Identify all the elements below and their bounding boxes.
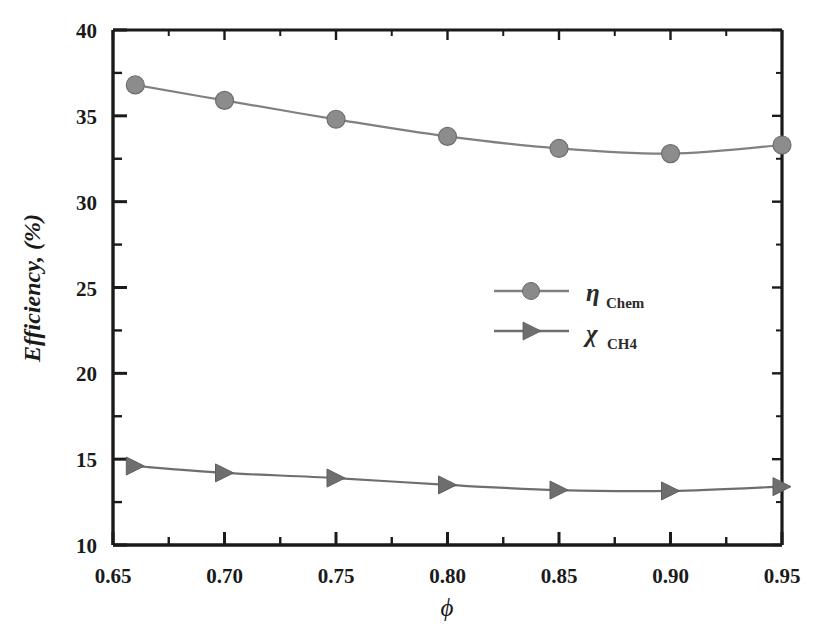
x-axis-tick-labels: 0.650.700.750.800.850.900.95 xyxy=(95,564,801,588)
y-tick-label: 20 xyxy=(76,362,97,386)
plot-frame xyxy=(113,30,782,545)
data-point xyxy=(662,145,680,163)
data-point xyxy=(216,91,234,109)
x-tick-label: 0.75 xyxy=(318,564,355,588)
y-tick-label: 40 xyxy=(76,19,97,43)
chart-figure: 0.650.700.750.800.850.900.95 10152025303… xyxy=(0,0,815,641)
legend-label-eta: η xyxy=(586,279,600,306)
legend-sublabel-chem: Chem xyxy=(606,295,645,311)
x-axis-title: ϕ xyxy=(441,594,454,621)
y-tick-label: 35 xyxy=(76,105,97,129)
chart-svg: 0.650.700.750.800.850.900.95 10152025303… xyxy=(0,0,815,641)
x-tick-label: 0.65 xyxy=(95,564,132,588)
x-tick-label: 0.90 xyxy=(652,564,689,588)
data-point xyxy=(327,110,345,128)
x-tick-label: 0.70 xyxy=(206,564,243,588)
y-axis-tick-labels: 10152025303540 xyxy=(76,19,97,558)
y-tick-label: 30 xyxy=(76,191,97,215)
y-tick-label: 25 xyxy=(76,277,97,301)
legend-label-chi: χ xyxy=(583,320,599,347)
y-tick-label: 10 xyxy=(76,534,97,558)
y-tick-label: 15 xyxy=(76,448,97,472)
data-point xyxy=(773,136,791,154)
data-point xyxy=(126,76,144,94)
x-tick-label: 0.80 xyxy=(429,564,466,588)
x-tick-label: 0.85 xyxy=(541,564,578,588)
data-point xyxy=(550,139,568,157)
legend-sublabel-ch4: CH4 xyxy=(607,336,638,352)
y-axis-title: Efficiency, (%) xyxy=(19,214,45,363)
data-point xyxy=(439,127,457,145)
x-tick-label: 0.95 xyxy=(764,564,801,588)
